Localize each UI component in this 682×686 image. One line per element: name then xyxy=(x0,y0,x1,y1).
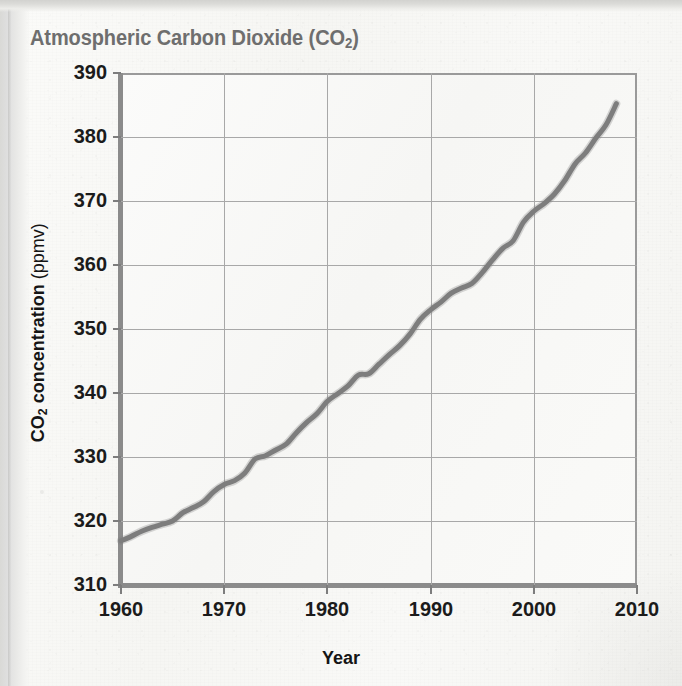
data-line-path xyxy=(121,104,616,541)
x-axis-tick-label: 1980 xyxy=(289,597,365,621)
y-axis-tick-label: 370 xyxy=(52,188,107,212)
y-axis-tick xyxy=(113,456,121,458)
y-axis-tick-label: 320 xyxy=(52,508,107,532)
x-axis-tick xyxy=(636,585,638,594)
y-axis-tick-label: 350 xyxy=(52,316,107,340)
y-axis-tick xyxy=(113,200,121,202)
y-axis-title-main: CO2 concentration xyxy=(28,279,48,442)
chart-page: Atmospheric Carbon Dioxide (CO2) 3103203… xyxy=(0,0,682,686)
chart-title-tail: ) xyxy=(352,26,359,50)
x-axis-tick-label: 1990 xyxy=(393,597,469,621)
page-gutter-edge xyxy=(8,0,11,686)
plot-area xyxy=(121,73,637,585)
page-gutter-top xyxy=(0,0,682,12)
data-line-co2 xyxy=(121,73,637,585)
y-axis-tick xyxy=(113,392,121,394)
y-axis-tick-label: 310 xyxy=(52,572,107,596)
x-axis-tick xyxy=(326,585,328,594)
y-axis-tick xyxy=(113,136,121,138)
x-axis-title: Year xyxy=(0,648,682,669)
y-axis-tick xyxy=(113,328,121,330)
x-axis-tick xyxy=(430,585,432,594)
y-axis-title-rest: concentration xyxy=(28,279,48,408)
x-axis-tick xyxy=(533,585,535,594)
x-axis-tick xyxy=(120,585,122,594)
y-axis-tick xyxy=(113,520,121,522)
y-axis-tick-label: 340 xyxy=(52,380,107,404)
y-axis-tick-label: 360 xyxy=(52,252,107,276)
y-axis-title-subscript: 2 xyxy=(36,408,50,415)
y-axis-title-co: CO xyxy=(28,415,48,442)
chart-title-main: Atmospheric Carbon Dioxide (CO xyxy=(30,26,345,50)
x-axis-tick xyxy=(223,585,225,594)
y-axis-tick xyxy=(113,72,121,74)
x-axis-tick-label: 1970 xyxy=(186,597,262,621)
data-line-halo xyxy=(121,104,616,541)
x-axis-tick-label: 1960 xyxy=(83,597,159,621)
y-axis-tick-label: 380 xyxy=(52,124,107,148)
y-axis-tick-label: 390 xyxy=(52,60,107,84)
page-gutter-left xyxy=(0,0,30,686)
x-axis-tick-label: 2000 xyxy=(496,597,572,621)
y-axis-title: CO2 concentration (ppmv) xyxy=(28,133,49,533)
x-axis-tick-label: 2010 xyxy=(599,597,675,621)
y-axis-tick xyxy=(113,264,121,266)
chart-title: Atmospheric Carbon Dioxide (CO2) xyxy=(30,26,359,51)
y-axis-title-unit: (ppmv) xyxy=(28,223,48,279)
y-axis-tick-label: 330 xyxy=(52,444,107,468)
